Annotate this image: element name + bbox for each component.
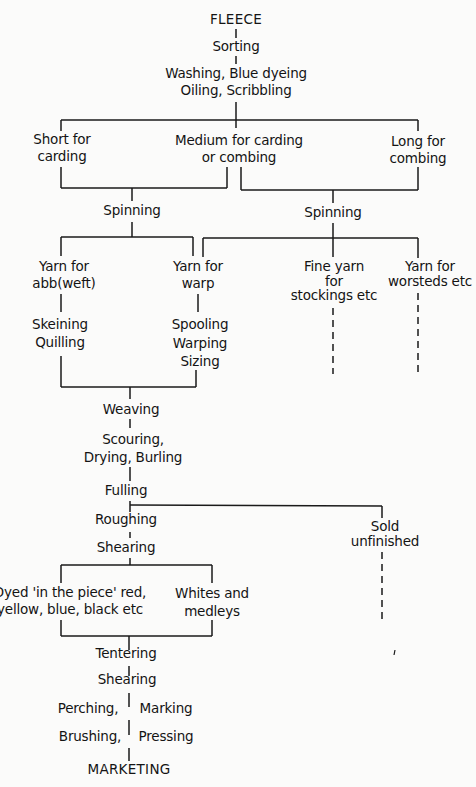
node-text: abb(weft) — [32, 275, 95, 292]
node-text: Spinning — [304, 204, 361, 221]
node-text: carding — [33, 148, 90, 165]
node-text: Drying, Burling — [84, 448, 182, 466]
node-text: warp — [173, 275, 223, 292]
node-text: Yarn for — [173, 258, 223, 275]
node-pressing: Pressing — [139, 728, 194, 745]
node-spooling-warping-sizing: Spooling Warping Sizing — [172, 315, 229, 371]
node-text: Scouring, — [84, 430, 182, 448]
node-long-for-combing: Long for combing — [390, 133, 447, 166]
node-text: Shearing — [97, 539, 156, 556]
node-text: Long for — [390, 133, 447, 150]
node-tentering: Tentering — [95, 645, 156, 662]
node-text: Whites and — [175, 584, 249, 602]
node-fulling: Fulling — [105, 482, 148, 499]
node-spinning-right: Spinning — [304, 204, 361, 221]
node-shearing-1: Shearing — [97, 539, 156, 556]
node-yarn-for-worsteds: Yarn for worsteds etc — [388, 259, 472, 289]
node-text: Yarn for — [32, 258, 95, 275]
node-washing-oiling: Washing, Blue dyeing Oiling, Scribbling — [165, 65, 307, 98]
node-weaving: Weaving — [103, 401, 160, 418]
node-text: worsteds etc — [388, 274, 472, 289]
node-short-for-carding: Short for carding — [33, 131, 90, 164]
node-yarn-for-weft: Yarn for abb(weft) — [32, 258, 95, 291]
node-sold-unfinished: Sold unfinished — [351, 519, 419, 549]
node-skeining-quilling: Skeining Quilling — [32, 315, 88, 351]
process-flow-diagram: FLEECE Sorting Washing, Blue dyeing Oili… — [0, 0, 476, 787]
node-text: yellow, blue, black etc — [0, 601, 146, 618]
node-text: Medium for carding — [175, 132, 303, 149]
node-text: Yarn for — [388, 259, 472, 274]
node-spinning-left: Spinning — [103, 202, 160, 219]
node-text: FLEECE — [210, 11, 262, 28]
node-medium-for-carding-or-combing: Medium for carding or combing — [175, 132, 303, 165]
node-fine-yarn-for-stockings: Fine yarn for stockings etc — [291, 259, 377, 303]
node-text: Spooling — [172, 315, 229, 334]
node-text: Skeining — [32, 315, 88, 333]
node-text: Sold — [351, 519, 419, 534]
node-brushing: Brushing, — [59, 728, 121, 745]
node-roughing: Roughing — [95, 511, 157, 528]
node-dyed-in-the-piece: Dyed 'in the piece' red, yellow, blue, b… — [0, 584, 146, 618]
node-text: Marking — [140, 700, 193, 717]
node-text: Pressing — [139, 728, 194, 745]
node-fleece: FLEECE — [210, 11, 262, 28]
node-text: or combing — [175, 149, 303, 166]
node-text: Fulling — [105, 482, 148, 499]
node-marking: Marking — [140, 700, 193, 717]
node-scouring-drying-burling: Scouring, Drying, Burling — [84, 430, 182, 466]
node-shearing-2: Shearing — [98, 671, 157, 688]
node-text: Roughing — [95, 511, 157, 528]
node-text: combing — [390, 150, 447, 167]
node-text: Quilling — [32, 333, 88, 351]
node-text: Shearing — [98, 671, 157, 688]
node-text: Short for — [33, 131, 90, 148]
node-text: Weaving — [103, 401, 160, 418]
node-text: medleys — [175, 602, 249, 620]
node-sorting: Sorting — [212, 38, 259, 55]
node-marketing: MARKETING — [87, 761, 170, 778]
node-text: stockings etc — [291, 288, 377, 303]
node-text: Dyed 'in the piece' red, — [0, 584, 146, 601]
node-text: Perching, — [58, 700, 119, 717]
node-perching: Perching, — [58, 700, 119, 717]
node-text: Washing, Blue dyeing — [165, 65, 307, 82]
node-text: Oiling, Scribbling — [165, 82, 307, 99]
node-whites-and-medleys: Whites and medleys — [175, 584, 249, 620]
node-text: MARKETING — [87, 761, 170, 778]
node-text: unfinished — [351, 534, 419, 549]
node-text: Fine yarn — [291, 259, 377, 274]
node-text: Brushing, — [59, 728, 121, 745]
node-text: for — [291, 274, 377, 289]
node-text: Spinning — [103, 202, 160, 219]
node-text: Warping — [172, 334, 229, 353]
node-text: Sorting — [212, 38, 259, 55]
node-text: Sizing — [172, 352, 229, 371]
node-text: Tentering — [95, 645, 156, 662]
node-yarn-for-warp: Yarn for warp — [173, 258, 223, 291]
connector-lines — [0, 0, 476, 787]
